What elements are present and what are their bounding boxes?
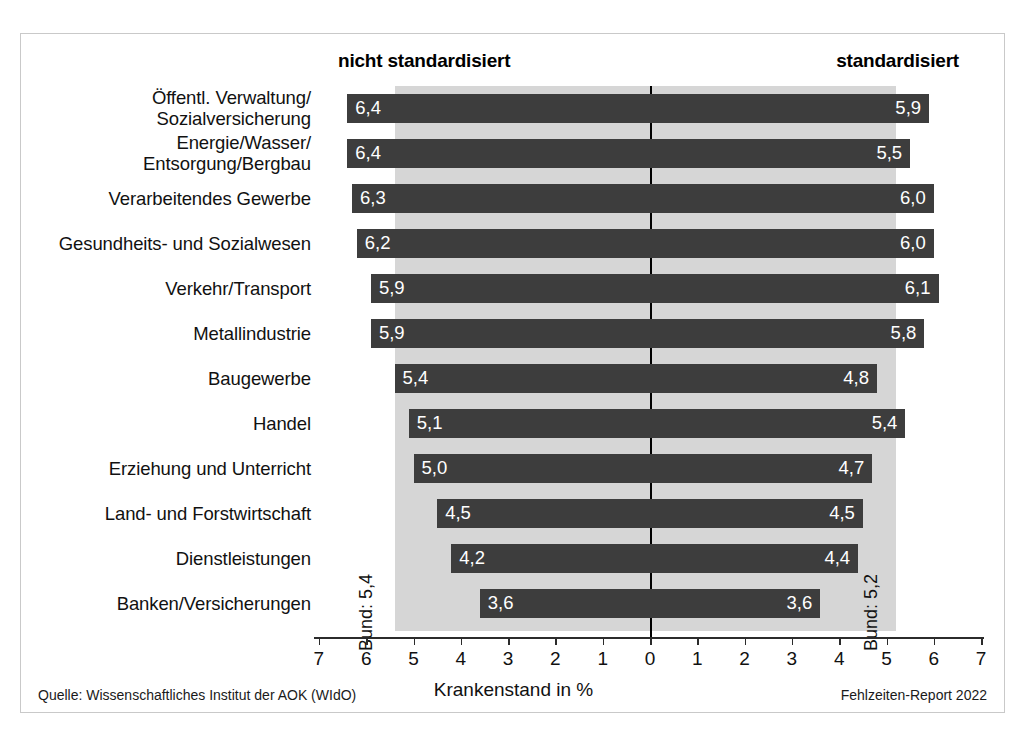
category-label: Öffentl. Verwaltung/Sozialversicherung (21, 86, 311, 131)
table-row: Gesundheits- und Sozialwesen6,26,0 (21, 221, 1006, 266)
category-label-text: Baugewerbe (208, 368, 311, 389)
x-axis-tick (508, 637, 510, 645)
table-row: Verarbeitendes Gewerbe6,36,0 (21, 176, 1006, 221)
bar-value-label: 5,1 (417, 414, 443, 433)
x-axis-tick-label: 2 (730, 648, 760, 670)
bar-value-label: 5,0 (422, 459, 448, 478)
plot-area: Öffentl. Verwaltung/Sozialversicherung6,… (21, 34, 1006, 714)
bar-value-label: 6,4 (355, 99, 381, 118)
category-label: Metallindustrie (21, 311, 311, 356)
bar-value-label: 5,9 (895, 99, 921, 118)
bar-value-label: 5,9 (379, 324, 405, 343)
bar-value-label: 6,2 (365, 234, 391, 253)
bar-value-label: 4,8 (843, 369, 869, 388)
bar-value-label: 5,8 (891, 324, 917, 343)
category-label: Baugewerbe (21, 356, 311, 401)
table-row: Metallindustrie5,95,8 (21, 311, 1006, 356)
bar-standardisiert: 6,1 (650, 274, 939, 303)
category-label-text: Dienstleistungen (176, 548, 311, 569)
category-label-text: Verkehr/Transport (165, 278, 311, 299)
category-label: Handel (21, 401, 311, 446)
x-axis-tick-label: 7 (304, 648, 334, 670)
bar-standardisiert: 3,6 (650, 589, 820, 618)
category-label: Banken/Versicherungen (21, 581, 311, 626)
bund-reference-label-right: Bund: 5,2 (861, 574, 882, 651)
bar-standardisiert: 5,9 (650, 94, 929, 123)
x-axis-tick (745, 637, 747, 645)
bar-value-label: 4,2 (459, 549, 485, 568)
category-label-text: Verarbeitendes Gewerbe (109, 188, 311, 209)
bar-nicht-standardisiert: 4,2 (451, 544, 650, 573)
category-label-text: Energie/Wasser/Entsorgung/Bergbau (143, 133, 311, 174)
category-label: Erziehung und Unterricht (21, 446, 311, 491)
bar-value-label: 4,4 (824, 549, 850, 568)
bar-standardisiert: 5,8 (650, 319, 924, 348)
bar-value-label: 6,0 (900, 189, 926, 208)
bar-value-label: 3,6 (787, 594, 813, 613)
category-label: Land- und Forstwirtschaft (21, 491, 311, 536)
x-axis-tick (981, 637, 983, 645)
x-axis-tick-label: 4 (824, 648, 854, 670)
chart-frame: nicht standardisiert standardisiert Öffe… (20, 33, 1005, 713)
x-axis-tick-label: 2 (540, 648, 570, 670)
bar-standardisiert: 6,0 (650, 229, 934, 258)
table-row: Verkehr/Transport5,96,1 (21, 266, 1006, 311)
bar-value-label: 6,0 (900, 234, 926, 253)
table-row: Öffentl. Verwaltung/Sozialversicherung6,… (21, 86, 1006, 131)
bar-standardisiert: 6,0 (650, 184, 934, 213)
bar-value-label: 3,6 (488, 594, 514, 613)
x-axis-tick (650, 637, 652, 645)
x-axis-tick-label: 3 (493, 648, 523, 670)
bar-value-label: 6,4 (355, 144, 381, 163)
bar-standardisiert: 4,8 (650, 364, 877, 393)
category-label-text: Banken/Versicherungen (117, 593, 311, 614)
category-label-text: Metallindustrie (193, 323, 311, 344)
bar-value-label: 5,4 (872, 414, 898, 433)
x-axis-tick-label: 5 (399, 648, 429, 670)
bar-value-label: 5,9 (379, 279, 405, 298)
x-axis-tick (603, 637, 605, 645)
x-axis-tick-label: 4 (446, 648, 476, 670)
table-row: Handel5,15,4 (21, 401, 1006, 446)
x-axis-tick-label: 7 (966, 648, 996, 670)
x-axis-tick-label: 3 (777, 648, 807, 670)
bar-nicht-standardisiert: 4,5 (437, 499, 650, 528)
table-row: Energie/Wasser/Entsorgung/Bergbau6,45,5 (21, 131, 1006, 176)
x-axis-tick (839, 637, 841, 645)
table-row: Erziehung und Unterricht5,04,7 (21, 446, 1006, 491)
category-label: Energie/Wasser/Entsorgung/Bergbau (21, 131, 311, 176)
source-note: Quelle: Wissenschaftliches Institut der … (38, 687, 356, 703)
bar-standardisiert: 4,5 (650, 499, 863, 528)
bar-nicht-standardisiert: 3,6 (480, 589, 650, 618)
category-label-text: Öffentl. Verwaltung/Sozialversicherung (152, 88, 311, 129)
category-label: Verkehr/Transport (21, 266, 311, 311)
x-axis-tick-label: 5 (872, 648, 902, 670)
bar-standardisiert: 5,5 (650, 139, 910, 168)
bar-value-label: 5,5 (876, 144, 902, 163)
x-axis-tick (414, 637, 416, 645)
bar-nicht-standardisiert: 5,0 (414, 454, 651, 483)
x-axis-tick (934, 637, 936, 645)
category-label: Gesundheits- und Sozialwesen (21, 221, 311, 266)
bar-standardisiert: 5,4 (650, 409, 905, 438)
category-label-text: Erziehung und Unterricht (109, 458, 311, 479)
category-label: Dienstleistungen (21, 536, 311, 581)
category-label-text: Gesundheits- und Sozialwesen (59, 233, 311, 254)
bar-value-label: 4,7 (839, 459, 865, 478)
category-label-text: Handel (253, 413, 311, 434)
bar-nicht-standardisiert: 6,4 (347, 139, 650, 168)
x-axis-tick-label: 6 (919, 648, 949, 670)
x-axis-tick (792, 637, 794, 645)
x-axis-tick-label: 1 (682, 648, 712, 670)
table-row: Dienstleistungen4,24,4 (21, 536, 1006, 581)
bar-nicht-standardisiert: 6,3 (352, 184, 650, 213)
x-axis-tick (319, 637, 321, 645)
report-note: Fehlzeiten-Report 2022 (841, 687, 987, 703)
bar-standardisiert: 4,7 (650, 454, 872, 483)
bar-value-label: 5,4 (403, 369, 429, 388)
bar-nicht-standardisiert: 6,4 (347, 94, 650, 123)
x-axis-tick (366, 637, 368, 645)
bar-value-label: 6,1 (905, 279, 931, 298)
bar-nicht-standardisiert: 5,1 (409, 409, 650, 438)
bar-nicht-standardisiert: 5,4 (395, 364, 650, 393)
